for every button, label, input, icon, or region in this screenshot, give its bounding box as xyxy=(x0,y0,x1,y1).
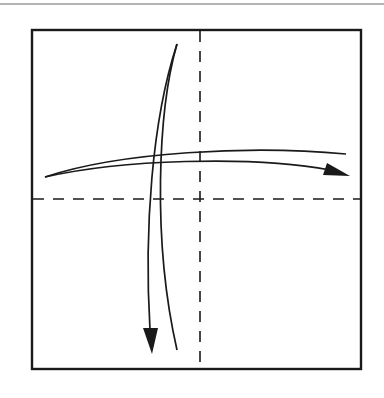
fold-right-arrow-icon xyxy=(45,150,350,177)
origami-diagram xyxy=(0,0,384,398)
fold-down-arrow-icon xyxy=(143,44,177,354)
